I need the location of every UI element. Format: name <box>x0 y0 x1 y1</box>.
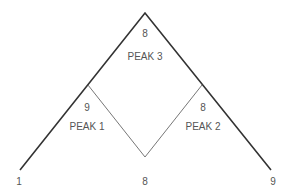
peak-2-value: 8 <box>200 102 206 113</box>
base-center-label: 8 <box>142 176 148 187</box>
peak-1-label: PEAK 1 <box>69 121 104 132</box>
peak-diagram: 8 PEAK 3 9 PEAK 1 8 PEAK 2 1 8 9 <box>0 0 289 193</box>
peak-1-value: 9 <box>84 102 90 113</box>
peak-3-value: 8 <box>142 28 148 39</box>
base-left-label: 1 <box>16 176 22 187</box>
peak-2-label: PEAK 2 <box>185 121 220 132</box>
base-right-label: 9 <box>270 176 276 187</box>
peak-3-label: PEAK 3 <box>127 51 162 62</box>
